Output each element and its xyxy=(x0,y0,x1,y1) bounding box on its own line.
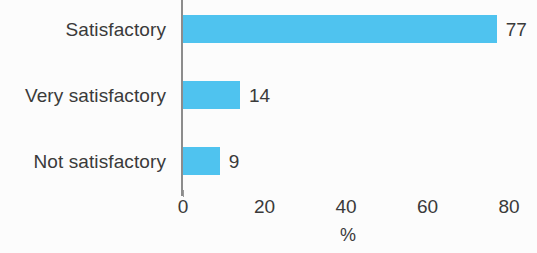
bar-satisfactory xyxy=(183,15,497,43)
category-label-not-satisfactory: Not satisfactory xyxy=(0,152,166,171)
x-tick-label: 40 xyxy=(316,197,376,216)
x-tick-label: 20 xyxy=(235,197,295,216)
x-axis-title: % xyxy=(318,226,378,244)
bar-value-not-satisfactory: 9 xyxy=(229,152,240,171)
bar-value-satisfactory: 77 xyxy=(506,20,527,39)
category-label-satisfactory: Satisfactory xyxy=(0,20,166,39)
bar-not-satisfactory xyxy=(183,147,220,175)
bar-chart: Satisfactory 77 Very satisfactory 14 Not… xyxy=(0,0,537,253)
x-tick-label: 80 xyxy=(479,197,537,216)
x-tick-label: 0 xyxy=(153,197,213,216)
category-label-very-satisfactory: Very satisfactory xyxy=(0,86,166,105)
bar-very-satisfactory xyxy=(183,81,240,109)
x-tick-label: 60 xyxy=(398,197,458,216)
plot-area: Satisfactory 77 Very satisfactory 14 Not… xyxy=(0,0,537,253)
bar-value-very-satisfactory: 14 xyxy=(249,86,270,105)
